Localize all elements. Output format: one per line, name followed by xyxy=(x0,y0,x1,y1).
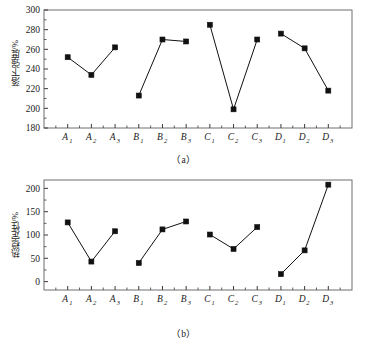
svg-text:2: 2 xyxy=(164,299,168,306)
y-axis-tick-label: 240 xyxy=(26,64,41,74)
data-point-marker xyxy=(255,37,260,42)
svg-text:2: 2 xyxy=(93,299,97,306)
data-point-marker xyxy=(136,260,141,265)
data-point-marker xyxy=(65,220,70,225)
svg-text:B: B xyxy=(181,294,187,304)
x-axis-tick-label: A3 xyxy=(109,294,121,306)
x-axis-tick-label: A1 xyxy=(61,132,72,144)
chart-b-canvas: 050100150200A1A2A3B1B2B3C1C2C3D1D2D3 xyxy=(0,168,367,344)
y-axis-tick-label: 50 xyxy=(31,254,41,264)
y-axis-tick-label: 0 xyxy=(35,277,40,287)
x-axis-tick-label: D1 xyxy=(274,132,286,144)
x-axis-tick-label: B2 xyxy=(157,294,168,306)
svg-text:C: C xyxy=(252,132,259,142)
plot-frame xyxy=(44,10,352,128)
y-axis-tick-label: 180 xyxy=(26,123,41,133)
y-axis-tick-label: 200 xyxy=(26,184,41,194)
data-point-marker xyxy=(65,55,70,60)
x-axis-tick-label: C2 xyxy=(228,294,239,306)
data-point-marker xyxy=(207,22,212,27)
data-point-marker xyxy=(160,37,165,42)
svg-text:1: 1 xyxy=(211,299,214,306)
data-series-segment xyxy=(281,185,328,274)
svg-text:B: B xyxy=(157,294,163,304)
data-point-marker xyxy=(255,225,260,230)
svg-text:D: D xyxy=(321,132,329,142)
svg-text:C: C xyxy=(204,294,211,304)
data-series-segment xyxy=(68,222,115,261)
svg-text:D: D xyxy=(298,132,306,142)
svg-text:C: C xyxy=(204,132,211,142)
svg-text:C: C xyxy=(252,294,259,304)
svg-text:B: B xyxy=(133,132,139,142)
data-point-marker xyxy=(113,45,118,50)
x-axis-tick-label: D1 xyxy=(274,294,286,306)
data-point-marker xyxy=(207,232,212,237)
data-point-marker xyxy=(326,88,331,93)
data-point-marker xyxy=(184,219,189,224)
svg-text:B: B xyxy=(157,132,163,142)
x-axis-tick-label: D2 xyxy=(298,132,311,144)
y-axis-tick-label: 300 xyxy=(26,5,41,15)
svg-text:C: C xyxy=(228,294,235,304)
data-point-marker xyxy=(231,246,236,251)
plot-frame xyxy=(44,180,352,290)
svg-text:1: 1 xyxy=(282,299,285,306)
svg-text:3: 3 xyxy=(187,137,192,144)
svg-text:3: 3 xyxy=(258,299,263,306)
data-point-marker xyxy=(136,93,141,98)
svg-text:2: 2 xyxy=(235,299,239,306)
data-point-marker xyxy=(231,107,236,112)
x-axis-tick-label: C3 xyxy=(252,294,263,306)
svg-text:D: D xyxy=(274,132,282,142)
svg-text:2: 2 xyxy=(164,137,168,144)
data-point-marker xyxy=(302,46,307,51)
svg-text:2: 2 xyxy=(306,299,310,306)
svg-text:D: D xyxy=(298,294,306,304)
svg-text:2: 2 xyxy=(235,137,239,144)
svg-text:1: 1 xyxy=(282,137,285,144)
chart-panel-a: 180200220240260280300A1A2A3B1B2B3C1C2C3D… xyxy=(0,0,367,172)
x-axis-tick-label: C1 xyxy=(204,294,214,306)
svg-text:D: D xyxy=(321,294,329,304)
data-point-marker xyxy=(302,248,307,253)
svg-text:A: A xyxy=(85,132,92,142)
data-point-marker xyxy=(89,259,94,264)
x-axis-tick-label: A2 xyxy=(85,294,97,306)
svg-text:A: A xyxy=(109,294,116,304)
chart-a-y-axis-label: 落下强度/% xyxy=(8,40,21,86)
chart-panel-b: 050100150200A1A2A3B1B2B3C1C2C3D1D2D3 xyxy=(0,168,367,344)
svg-text:3: 3 xyxy=(329,299,334,306)
chart-b-y-axis-label: 热稳定性/% xyxy=(8,212,21,258)
svg-text:3: 3 xyxy=(329,137,334,144)
data-point-marker xyxy=(278,272,283,277)
y-axis-tick-label: 200 xyxy=(26,104,41,114)
data-series-segment xyxy=(210,227,257,249)
svg-text:A: A xyxy=(61,132,68,142)
svg-text:1: 1 xyxy=(140,299,143,306)
chart-a-caption: （a） xyxy=(0,152,367,166)
x-axis-tick-label: D2 xyxy=(298,294,311,306)
y-axis-tick-label: 220 xyxy=(26,84,41,94)
svg-text:3: 3 xyxy=(116,299,121,306)
svg-text:2: 2 xyxy=(306,137,310,144)
x-axis-tick-label: A3 xyxy=(109,132,121,144)
data-series-segment xyxy=(139,40,186,96)
x-axis-tick-label: B2 xyxy=(157,132,168,144)
y-axis-tick-label: 150 xyxy=(26,207,41,217)
y-axis-tick-label: 280 xyxy=(26,25,41,35)
data-point-marker xyxy=(326,182,331,187)
svg-text:3: 3 xyxy=(258,137,263,144)
svg-text:A: A xyxy=(109,132,116,142)
svg-text:A: A xyxy=(61,294,68,304)
svg-text:1: 1 xyxy=(211,137,214,144)
data-point-marker xyxy=(184,39,189,44)
svg-text:1: 1 xyxy=(140,137,143,144)
data-point-marker xyxy=(89,72,94,77)
x-axis-tick-label: B1 xyxy=(133,294,143,306)
figure-two-panel-line-charts: 180200220240260280300A1A2A3B1B2B3C1C2C3D… xyxy=(0,0,367,344)
x-axis-tick-label: B1 xyxy=(133,132,143,144)
svg-text:2: 2 xyxy=(93,137,97,144)
svg-text:D: D xyxy=(274,294,282,304)
svg-text:1: 1 xyxy=(69,137,72,144)
